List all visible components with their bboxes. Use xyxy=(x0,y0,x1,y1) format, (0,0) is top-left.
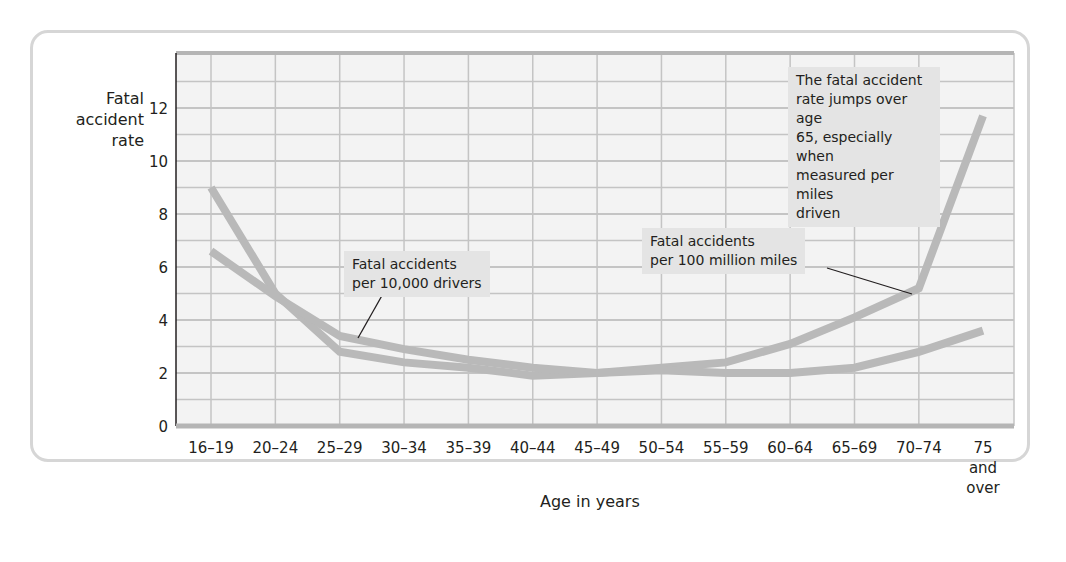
y-tick-label: 8 xyxy=(158,206,168,224)
y-tick-label: 6 xyxy=(158,259,168,277)
x-tick-label: 25–29 xyxy=(317,439,363,457)
annotation-per-miles: Fatal accidents per 100 million miles xyxy=(642,228,805,274)
annotation-per-drivers: Fatal accidents per 10,000 drivers xyxy=(344,251,490,297)
y-tick-label: 10 xyxy=(149,153,168,171)
x-axis-label: Age in years xyxy=(540,492,640,511)
x-tick-label: 50–54 xyxy=(639,439,685,457)
annotation-line: rate jumps over age xyxy=(796,90,932,128)
annotation-line: 65, especially when xyxy=(796,128,932,166)
x-tick-label: and xyxy=(969,459,997,477)
x-tick-label: 30–34 xyxy=(381,439,427,457)
y-axis-label-line: rate xyxy=(76,130,144,151)
x-tick-label: 35–39 xyxy=(446,439,492,457)
x-tick-label: 60–64 xyxy=(767,439,813,457)
x-tick-label: 70–74 xyxy=(896,439,942,457)
annotation-line: driven xyxy=(796,204,932,223)
annotation-line: per 10,000 drivers xyxy=(352,274,482,293)
x-tick-label: 75 xyxy=(973,439,992,457)
y-axis-label-line: Fatal xyxy=(76,88,144,109)
annotation-line: Fatal accidents xyxy=(650,232,797,251)
y-axis-label: Fatal accident rate xyxy=(76,88,144,151)
y-tick-label: 12 xyxy=(149,100,168,118)
x-tick-label: 16–19 xyxy=(188,439,234,457)
y-tick-label: 4 xyxy=(158,312,168,330)
x-tick-label: 45–49 xyxy=(574,439,620,457)
y-tick-label: 2 xyxy=(158,365,168,383)
x-tick-label: 20–24 xyxy=(253,439,299,457)
annotation-line: The fatal accident xyxy=(796,71,932,90)
x-tick-label: over xyxy=(966,479,1000,497)
annotation-jump-over-65: The fatal accident rate jumps over age 6… xyxy=(788,67,940,227)
x-tick-label: 65–69 xyxy=(832,439,878,457)
annotation-line: per 100 million miles xyxy=(650,251,797,270)
annotation-line: Fatal accidents xyxy=(352,255,482,274)
x-tick-label: 40–44 xyxy=(510,439,556,457)
y-tick-label: 0 xyxy=(158,418,168,436)
y-axis-label-line: accident xyxy=(76,109,144,130)
x-tick-label: 55–59 xyxy=(703,439,749,457)
annotation-line: measured per miles xyxy=(796,166,932,204)
